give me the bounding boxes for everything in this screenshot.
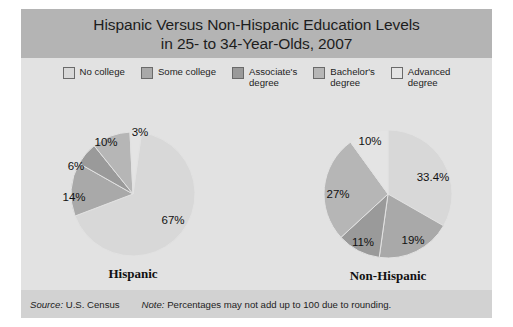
pie-slice-no-college xyxy=(75,133,195,256)
slice-value-label: 33.4% xyxy=(417,171,450,183)
legend-item: Advanced degree xyxy=(391,66,451,88)
legend-item: Bachelor's degree xyxy=(313,66,375,88)
pie-slice-some-college xyxy=(71,163,133,216)
pie-slice-associate-s-degree xyxy=(341,194,388,257)
pie-slice-no-college xyxy=(388,130,452,226)
legend-item-label: Associate's degree xyxy=(249,66,297,88)
pie-caption: Non-Hispanic xyxy=(350,268,427,284)
pie-slice-some-college xyxy=(379,194,443,258)
slice-value-label: 10% xyxy=(358,135,381,147)
legend-item-label: No college xyxy=(80,66,125,77)
source-note: Source: U.S. Census xyxy=(30,299,120,310)
slice-value-label: 67% xyxy=(161,214,184,226)
chart-figure: Hispanic Versus Non-Hispanic Education L… xyxy=(21,9,492,318)
pie-slice-bachelor-s-degree xyxy=(94,132,133,194)
source-text: U.S. Census xyxy=(66,299,120,310)
legend-item: No college xyxy=(63,66,125,79)
legend-swatch-icon xyxy=(313,67,325,79)
pie-slice-advanced-degree xyxy=(130,132,142,194)
slice-value-label: 3% xyxy=(132,126,149,138)
legend-item-label: Some college xyxy=(158,66,216,77)
legend-item: Associate's degree xyxy=(232,66,297,88)
legend-swatch-icon xyxy=(63,67,75,79)
slice-value-label: 27% xyxy=(326,188,349,200)
page-title: Hispanic Versus Non-Hispanic Education L… xyxy=(93,15,419,53)
legend-item-label: Bachelor's degree xyxy=(330,66,375,88)
legend-item: Some college xyxy=(141,66,216,79)
slice-value-label: 14% xyxy=(62,191,85,203)
pie-svg xyxy=(21,94,492,281)
chart-legend: No collegeSome collegeAssociate's degree… xyxy=(21,58,492,94)
charts-container: 67%14%6%10%3%Hispanic33.4%19%11%27%10%No… xyxy=(21,94,492,281)
pie-caption: Hispanic xyxy=(108,266,157,282)
pie-chart-hispanic: 67%14%6%10%3%Hispanic xyxy=(21,94,492,281)
slice-value-label: 19% xyxy=(401,234,424,246)
chart-footer: Source: U.S. Census Note: Percentages ma… xyxy=(21,290,492,318)
legend-item-label: Advanced degree xyxy=(408,66,451,88)
legend-swatch-icon xyxy=(391,67,403,79)
slice-value-label: 10% xyxy=(94,136,117,148)
legend-swatch-icon xyxy=(141,67,153,79)
rounding-note: Note: Percentages may not add up to 100 … xyxy=(142,299,392,310)
note-label: Note: xyxy=(142,299,165,310)
slice-value-label: 11% xyxy=(352,236,374,248)
legend-swatch-icon xyxy=(232,67,244,79)
pie-slice-associate-s-degree xyxy=(79,146,133,194)
pie-slice-bachelor-s-degree xyxy=(324,142,388,237)
pie-slice-advanced-degree xyxy=(351,130,388,194)
chart-title-band: Hispanic Versus Non-Hispanic Education L… xyxy=(21,9,492,58)
pie-chart-non-hispanic: 33.4%19%11%27%10%Non-Hispanic xyxy=(21,94,492,281)
slice-value-label: 6% xyxy=(68,160,85,172)
source-label: Source: xyxy=(30,299,63,310)
pie-svg xyxy=(21,94,492,281)
note-text: Percentages may not add up to 100 due to… xyxy=(167,299,391,310)
